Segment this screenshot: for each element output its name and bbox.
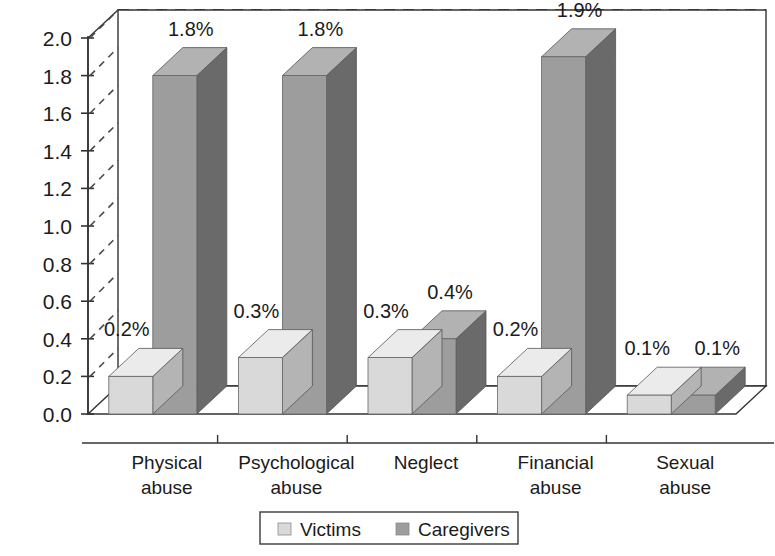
legend-label-victims: Victims [300, 519, 361, 540]
x-axis-category-label: Psychological [238, 452, 354, 473]
x-axis-category-label: abuse [271, 477, 323, 498]
chart-container: 0.00.20.40.60.81.01.21.41.61.82.0 0.2%1.… [0, 0, 775, 556]
y-axis-tick-label: 0.0 [43, 403, 72, 426]
value-label-victims: 0.3% [234, 300, 280, 322]
x-axis-category-labels-group: PhysicalabusePsychologicalabuseNeglectFi… [131, 452, 714, 498]
y-tick-depth-connector [90, 273, 118, 301]
y-axis-tick-label: 0.2 [43, 365, 72, 388]
bar-caregivers-side-face [586, 29, 616, 414]
value-label-victims: 0.1% [624, 337, 670, 359]
value-label-caregivers: 0.4% [427, 281, 473, 303]
bar-victims-front-face [109, 376, 153, 414]
x-axis-category-label: Neglect [394, 452, 459, 473]
y-axis-tick-label: 0.6 [43, 290, 72, 313]
x-axis-category-label: Physical [131, 452, 202, 473]
y-tick-depth-connector [90, 123, 118, 151]
y-axis-tick-label: 2.0 [43, 27, 72, 50]
x-axis-category-label: abuse [141, 477, 193, 498]
bar-victims-front-face [368, 358, 412, 414]
legend-label-caregivers: Caregivers [418, 519, 510, 540]
x-axis-category-label: abuse [530, 477, 582, 498]
x-axis-category-label: abuse [659, 477, 711, 498]
bar-caregivers-side-face [197, 48, 227, 414]
bar-caregivers-side-face [326, 48, 356, 414]
y-axis-tick-label: 1.6 [43, 102, 72, 125]
value-label-caregivers: 1.8% [168, 18, 214, 40]
y-axis-tick-label: 1.4 [43, 140, 73, 163]
y-tick-depth-connector [90, 236, 118, 264]
value-label-victims: 0.2% [493, 318, 539, 340]
y-axis-tick-label: 1.2 [43, 177, 72, 200]
y-axis-tick-label: 1.8 [43, 65, 72, 88]
x-axis-category-label: Sexual [656, 452, 714, 473]
y-tick-depth-connector [90, 85, 118, 113]
y-axis-tick-label: 0.8 [43, 253, 72, 276]
value-label-caregivers: 0.1% [694, 337, 740, 359]
value-label-caregivers: 1.8% [298, 18, 344, 40]
value-label-victims: 0.2% [104, 318, 150, 340]
y-axis-tick-labels-group: 0.00.20.40.60.81.01.21.41.61.82.0 [43, 27, 73, 426]
bar-victims-front-face [238, 358, 282, 414]
y-axis-tick-label: 1.0 [43, 215, 72, 238]
y-tick-depth-connector [90, 48, 118, 76]
legend-swatch-victims [278, 523, 291, 535]
bar-chart-3d: 0.00.20.40.60.81.01.21.41.61.82.0 0.2%1.… [0, 0, 775, 556]
y-tick-depth-connector [90, 198, 118, 226]
bar-victims-front-face [627, 395, 671, 414]
chart-title-cropped [0, 0, 775, 4]
bar-victims-front-face [498, 376, 542, 414]
y-tick-depth-connector [90, 160, 118, 188]
y-axis-tick-label: 0.4 [43, 328, 73, 351]
legend-group: VictimsCaregivers [260, 512, 518, 544]
value-label-victims: 0.3% [363, 300, 409, 322]
legend-swatch-caregivers [396, 523, 409, 535]
x-axis-category-label: Financial [518, 452, 594, 473]
